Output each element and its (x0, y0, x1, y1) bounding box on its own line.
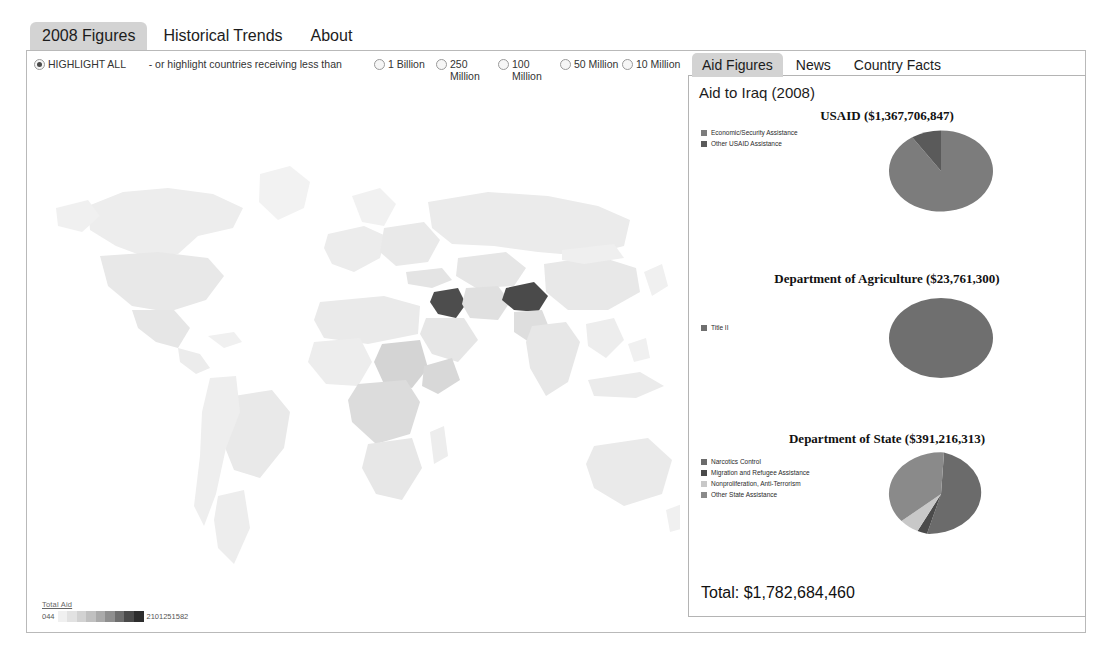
country-saudi-arabia[interactable] (420, 318, 478, 362)
amount-option-50-million[interactable]: 50 Million (560, 58, 622, 70)
total-aid-label: Total: $1,782,684,460 (701, 584, 855, 602)
chart-usaid-pie[interactable] (881, 128, 1001, 218)
region-western-europe[interactable] (324, 226, 386, 272)
chart-state: Department of State ($391,216,313) Narco… (689, 431, 1085, 543)
chart-agriculture: Department of Agriculture ($23,761,300) … (689, 271, 1085, 383)
region-west-africa[interactable] (308, 338, 372, 386)
amount-option-10-million[interactable]: 10 Million (622, 58, 684, 70)
legend-swatch-icon (701, 130, 707, 136)
chart-agriculture-legend: Title II (701, 323, 891, 334)
region-eastern-europe[interactable] (380, 222, 440, 266)
region-central-africa[interactable] (348, 380, 420, 444)
highlight-all-option[interactable]: HIGHLIGHT ALL (34, 58, 149, 70)
legend-label: Narcotics Control (711, 457, 761, 467)
chart-usaid-legend: Economic/Security Assistance Other USAID… (701, 128, 891, 150)
country-turkey[interactable] (406, 268, 452, 288)
legend-item: Economic/Security Assistance (701, 128, 891, 138)
country-japan[interactable] (644, 264, 668, 296)
tab-country-facts[interactable]: Country Facts (844, 53, 951, 77)
map-legend-min-value: 044 (42, 612, 55, 621)
country-madagascar[interactable] (430, 426, 448, 464)
chart-agriculture-title: Department of Agriculture ($23,761,300) (689, 271, 1085, 287)
legend-label: Other USAID Assistance (711, 139, 782, 149)
legend-item: Nonproliferation, Anti-Terrorism (701, 479, 891, 489)
country-greenland[interactable] (259, 166, 310, 220)
chart-usaid-title: USAID ($1,367,706,847) (689, 108, 1085, 124)
map-legend-max-value: 2101251582 (147, 612, 189, 621)
tab-about[interactable]: About (299, 22, 365, 50)
chart-state-title: Department of State ($391,216,313) (689, 431, 1085, 447)
map-landmasses (56, 166, 680, 564)
region-horn-of-africa[interactable] (422, 358, 460, 394)
chart-state-pie[interactable] (881, 451, 1001, 541)
region-indonesia[interactable] (588, 372, 664, 398)
country-united-states[interactable] (100, 252, 224, 312)
chart-usaid: USAID ($1,367,706,847) Economic/Security… (689, 108, 1085, 220)
country-iraq[interactable] (430, 288, 466, 318)
map-legend-scale: 044 2101251582 (42, 611, 222, 622)
tab-news[interactable]: News (786, 53, 841, 77)
legend-label: Economic/Security Assistance (711, 128, 798, 138)
aid-figures-panel: Aid to Iraq (2008) USAID ($1,367,706,847… (688, 75, 1086, 617)
main-tabstrip: 2008 Figures Historical Trends About (30, 22, 364, 50)
less-than-label: - or highlight countries receiving less … (149, 58, 342, 70)
legend-item: Other USAID Assistance (701, 139, 891, 149)
region-north-africa[interactable] (314, 296, 420, 344)
legend-swatch-icon (701, 459, 707, 465)
legend-item: Other State Assistance (701, 490, 891, 500)
highlight-controls: HIGHLIGHT ALL - or highlight countries r… (34, 58, 684, 92)
chart-agriculture-pie[interactable] (881, 295, 1001, 385)
region-scandinavia[interactable] (352, 188, 396, 226)
legend-swatch-icon (701, 492, 707, 498)
country-australia[interactable] (586, 438, 672, 506)
legend-label: Other State Assistance (711, 490, 777, 500)
legend-item: Migration and Refugee Assistance (701, 468, 891, 478)
radio-100-million[interactable] (498, 59, 509, 70)
panel-heading: Aid to Iraq (2008) (699, 84, 815, 101)
radio-50-million[interactable] (560, 59, 571, 70)
region-southern-africa[interactable] (362, 438, 422, 500)
amount-label-100-million: 100 Million (512, 58, 560, 82)
region-southeast-asia[interactable] (586, 318, 624, 358)
legend-swatch-icon (701, 470, 707, 476)
region-central-asia[interactable] (456, 252, 526, 288)
country-afghanistan[interactable] (502, 282, 548, 312)
region-caribbean[interactable] (208, 332, 242, 348)
tab-2008-figures[interactable]: 2008 Figures (30, 22, 147, 50)
country-china[interactable] (544, 256, 640, 310)
amount-option-100-million[interactable]: 100 Million (498, 58, 560, 82)
amount-label-250-million: 250 Million (450, 58, 498, 82)
country-philippines[interactable] (628, 338, 650, 362)
legend-item: Narcotics Control (701, 457, 891, 467)
radio-highlight-all[interactable] (34, 59, 45, 70)
pie-svg-state (881, 451, 1001, 537)
country-mexico[interactable] (132, 310, 190, 348)
legend-swatch-icon (701, 141, 707, 147)
tab-historical-trends[interactable]: Historical Trends (151, 22, 294, 50)
map-svg (28, 96, 680, 630)
country-new-zealand[interactable] (666, 504, 680, 532)
application-window: 2008 Figures Historical Trends About HIG… (0, 0, 1113, 670)
radio-250-million[interactable] (436, 59, 447, 70)
amount-label-50-million: 50 Million (574, 58, 622, 70)
tab-aid-figures[interactable]: Aid Figures (692, 53, 783, 77)
country-argentina[interactable] (214, 490, 250, 564)
legend-swatch-icon (701, 481, 707, 487)
pie-svg-usaid (881, 128, 1001, 214)
radio-10-million[interactable] (622, 59, 633, 70)
radio-1-billion[interactable] (374, 59, 385, 70)
highlight-all-label: HIGHLIGHT ALL (48, 58, 126, 70)
map-legend-gradient-bar (58, 611, 144, 622)
pie-slice-title-ii[interactable] (889, 298, 993, 378)
country-india[interactable] (526, 322, 580, 396)
amount-option-1-billion[interactable]: 1 Billion (374, 58, 436, 70)
world-choropleth-map[interactable] (28, 96, 680, 630)
map-legend-title: Total Aid (42, 600, 222, 609)
chart-state-legend: Narcotics Control Migration and Refugee … (701, 457, 891, 501)
legend-label: Nonproliferation, Anti-Terrorism (711, 479, 801, 489)
country-iran[interactable] (462, 286, 510, 320)
legend-label: Migration and Refugee Assistance (711, 468, 810, 478)
country-canada[interactable] (88, 188, 243, 258)
amount-option-250-million[interactable]: 250 Million (436, 58, 498, 82)
region-central-america[interactable] (178, 348, 210, 374)
